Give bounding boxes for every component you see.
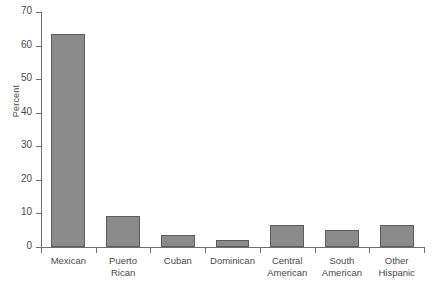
x-tick-mark [205,248,206,253]
bar [51,34,85,247]
x-tick-mark [315,248,316,253]
bar-chart-figure: Percent 010203040506070 MexicanPuerto Ri… [0,0,439,286]
x-tick-mark [96,248,97,253]
bar [325,230,359,247]
x-tick-label: Other Hispanic [363,255,430,278]
x-axis-spine [41,247,425,248]
y-tick-label: 0 [0,240,32,251]
y-tick-label: 50 [0,72,32,83]
y-tick-label: 40 [0,106,32,117]
x-tick-mark [41,248,42,253]
bar [161,235,195,247]
y-tick-label: 70 [0,5,32,16]
plot-area [41,12,424,247]
x-tick-mark [369,248,370,253]
x-tick-mark [424,248,425,253]
bar [106,216,140,247]
y-tick-label: 10 [0,206,32,217]
bar [270,225,304,247]
y-tick-label: 20 [0,173,32,184]
y-tick-label: 60 [0,39,32,50]
bar [380,225,414,247]
x-tick-mark [260,248,261,253]
x-tick-mark [150,248,151,253]
y-tick-label: 30 [0,139,32,150]
bar [216,240,250,247]
